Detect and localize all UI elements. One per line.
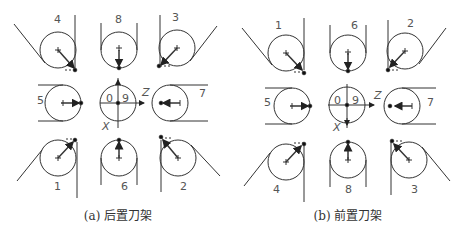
tool-a-bottom-right <box>159 135 220 192</box>
tool-a-top-center <box>101 23 137 70</box>
tool-label: 5 <box>37 94 44 107</box>
tool-a-middle-left <box>38 85 83 121</box>
tool-label: 0 <box>106 92 113 105</box>
tool-a-bottom-center <box>101 138 137 185</box>
tool-label: 6 <box>351 19 358 32</box>
tool-tip-direction-diagram: 4 8 3 5 0 9 7 1 6 2 Z X <box>0 0 462 225</box>
tool-label: 2 <box>180 180 187 193</box>
tool-b-top-left <box>242 18 306 75</box>
tool-label: 8 <box>115 13 122 26</box>
tool-label: 4 <box>54 13 61 26</box>
tool-label: 3 <box>411 183 418 196</box>
tool-a-top-left <box>14 15 77 72</box>
axis-x-label: X <box>101 120 110 133</box>
tool-label: 7 <box>427 96 434 109</box>
tool-a-bottom-left <box>17 138 77 198</box>
panel-a <box>14 15 220 198</box>
tool-label: 5 <box>264 96 271 109</box>
caption-rear-turret: (a) 后置刀架 <box>84 206 152 223</box>
tool-b-bottom-right <box>390 139 450 195</box>
panel-b <box>242 18 450 202</box>
axis-z-label: Z <box>141 86 150 99</box>
tool-label: 9 <box>352 94 359 107</box>
tool-label: 2 <box>407 17 414 30</box>
caption-front-turret: (b) 前置刀架 <box>314 206 383 223</box>
tool-a-top-right <box>157 15 217 68</box>
diagram-canvas: 4 8 3 5 0 9 7 1 6 2 Z X <box>0 0 462 225</box>
tool-label: 0 <box>334 94 341 107</box>
axis-z-label: Z <box>373 89 382 102</box>
tool-b-top-right <box>386 20 446 72</box>
tool-label: 4 <box>273 183 280 196</box>
tool-label: 6 <box>121 180 128 193</box>
tool-label: 9 <box>122 92 129 105</box>
tool-label: 7 <box>199 87 206 100</box>
axis-x-label: X <box>332 121 341 134</box>
tool-b-bottom-center <box>330 140 366 187</box>
tool-label: 1 <box>54 180 61 193</box>
tool-label: 8 <box>345 183 352 196</box>
tool-label: 3 <box>172 11 179 24</box>
panel-a-labels: 4 8 3 5 0 9 7 1 6 2 Z X <box>37 11 206 193</box>
tool-label: 1 <box>275 19 282 32</box>
tool-b-middle-left <box>265 88 312 124</box>
tool-b-top-center <box>330 25 366 73</box>
